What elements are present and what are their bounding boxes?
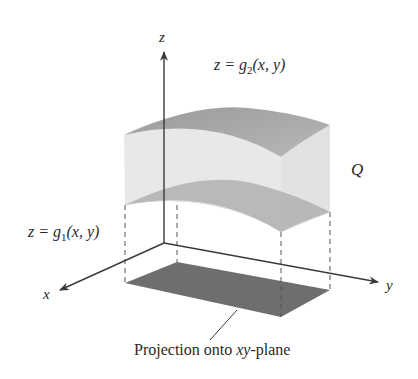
caption-post: -plane bbox=[250, 341, 290, 359]
lower-prefix: z = g bbox=[27, 223, 61, 241]
upper-prefix: z = g bbox=[213, 56, 247, 74]
caption-var: xy bbox=[235, 341, 251, 359]
caption-pre: Projection onto bbox=[134, 341, 236, 359]
projection-caption: Projection onto xy-plane bbox=[134, 341, 290, 359]
lower-suffix: (x, y) bbox=[67, 223, 100, 241]
projection-leader bbox=[210, 310, 237, 340]
solid-region-diagram: z x y z = g2(x, y) z = g1(x, y) Q Projec… bbox=[0, 0, 418, 379]
y-axis-label: y bbox=[384, 277, 393, 293]
projection-region bbox=[125, 262, 330, 317]
z-axis-label: z bbox=[158, 29, 165, 45]
region-label: Q bbox=[351, 160, 363, 179]
x-axis-label: x bbox=[42, 286, 50, 302]
upper-suffix: (x, y) bbox=[253, 56, 286, 74]
